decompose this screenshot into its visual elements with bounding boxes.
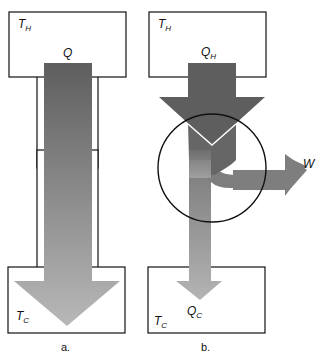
panel-b: TH QH W QC TC b. xyxy=(148,12,316,353)
panel-a: TH Q TC a. xyxy=(8,12,126,353)
work-label: W xyxy=(303,157,316,171)
heat-engine-diagram: TH Q TC a. TH QH W QC TC b. xyxy=(0,0,322,358)
caption-a: a. xyxy=(61,341,70,353)
heat-flow-arrow-a xyxy=(14,63,120,326)
caption-b: b. xyxy=(201,341,210,353)
heat-label-a: Q xyxy=(63,46,72,60)
